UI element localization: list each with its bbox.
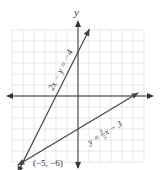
y-axis-down-arrow-icon [75, 162, 81, 169]
x-axis-left-arrow-icon [6, 93, 13, 99]
x-axis-right-arrow-icon [147, 93, 154, 99]
intersection-label: (−5, −6) [33, 158, 63, 168]
coordinate-plane: y 2x − y = −4 y = 3 5 x − 3 (−5, −6) [0, 0, 160, 170]
line2-label: y = 3 5 x − 3 [85, 117, 126, 149]
svg-text:y =: y = [85, 132, 102, 147]
y-axis [75, 20, 81, 169]
y-axis-up-arrow-icon [75, 20, 81, 27]
y-axis-label: y [73, 6, 79, 18]
line-1 [18, 29, 90, 170]
